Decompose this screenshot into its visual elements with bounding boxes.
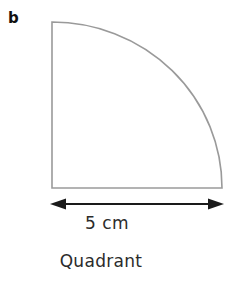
quadrant-shape-outline [52,22,222,188]
figure-container: b 5 cm Quadrant [0,0,244,284]
dimension-label: 5 cm [0,212,244,234]
dimension-arrowhead-left-icon [50,199,66,210]
shape-caption: Quadrant [0,249,244,273]
part-label: b [8,11,19,26]
dimension-arrowhead-right-icon [208,199,224,210]
quadrant-diagram-svg [0,0,244,284]
